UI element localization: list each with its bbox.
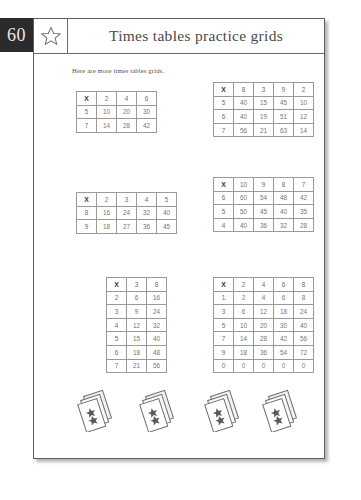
grid-answer-cell[interactable]: 16 [97, 206, 117, 220]
times-table-grid-3[interactable]: X2345816243240918273645 [76, 192, 177, 234]
grid-answer-cell[interactable]: 42 [274, 332, 294, 346]
grid-row-header: 3 [214, 305, 234, 319]
grid-row: 41232 [107, 318, 167, 332]
grid-answer-cell[interactable]: 36 [137, 220, 157, 234]
grid-header-row: X2345 [77, 193, 177, 207]
grid-answer-cell[interactable]: 40 [147, 332, 167, 346]
grid-answer-cell[interactable]: 48 [147, 345, 167, 359]
grid-answer-cell[interactable]: 40 [294, 318, 314, 332]
grid-answer-cell[interactable]: 0 [274, 359, 294, 373]
grid-row: 51540 [107, 332, 167, 346]
grid-answer-cell[interactable]: 10 [97, 105, 117, 119]
grid-answer-cell[interactable]: 14 [97, 119, 117, 133]
grid-answer-cell[interactable]: 18 [97, 220, 117, 234]
grid-column-header: 8 [147, 278, 167, 292]
grid-row-header: 5 [214, 96, 234, 110]
grid-column-header: 4 [254, 278, 274, 292]
grid-answer-cell[interactable]: 45 [254, 205, 274, 219]
grid-answer-cell[interactable]: 15 [254, 96, 274, 110]
grid-answer-cell[interactable]: 56 [294, 332, 314, 346]
grid-answer-cell[interactable]: 40 [274, 205, 294, 219]
grid-row: 540154510 [214, 96, 314, 110]
times-table-grid-2[interactable]: X8392540154510640195112756216314 [213, 82, 314, 137]
grid-row: 00000 [214, 359, 314, 373]
grid-answer-cell[interactable]: 30 [137, 105, 157, 119]
grid-row-header: 4 [107, 318, 127, 332]
grid-answer-cell[interactable]: 72 [294, 345, 314, 359]
grid-answer-cell[interactable]: 48 [274, 191, 294, 205]
grid-answer-cell[interactable]: 0 [234, 359, 254, 373]
grid-column-header: 8 [234, 83, 254, 97]
grid-column-header: 10 [234, 178, 254, 192]
grid-answer-cell[interactable]: 54 [254, 191, 274, 205]
grid-answer-cell[interactable]: 28 [254, 332, 274, 346]
times-table-grid-4[interactable]: X10987660544842550454035440363228 [213, 177, 314, 232]
grid-answer-cell[interactable]: 18 [274, 305, 294, 319]
grid-answer-cell[interactable]: 30 [274, 318, 294, 332]
grid-header-row: X246 [77, 92, 157, 106]
stacked-cards-icon [137, 386, 181, 432]
grid-answer-cell[interactable]: 42 [137, 119, 157, 133]
grid-answer-cell[interactable]: 10 [234, 318, 254, 332]
stacked-cards-icon [202, 386, 246, 432]
grid-row-header: 4 [214, 218, 234, 232]
grid-answer-cell[interactable]: 36 [254, 345, 274, 359]
grid-answer-cell[interactable]: 0 [294, 359, 314, 373]
grid-answer-cell[interactable]: 0 [254, 359, 274, 373]
grid-answer-cell[interactable]: 40 [234, 218, 254, 232]
grid-answer-cell[interactable]: 28 [294, 218, 314, 232]
grid-answer-cell[interactable]: 40 [157, 206, 177, 220]
grid-answer-cell[interactable]: 6 [234, 305, 254, 319]
grid-answer-cell[interactable]: 2 [234, 291, 254, 305]
grid-answer-cell[interactable]: 40 [234, 96, 254, 110]
grid-row: 7142842 [77, 119, 157, 133]
grid-answer-cell[interactable]: 24 [147, 305, 167, 319]
grid-answer-cell[interactable]: 9 [127, 305, 147, 319]
grid-column-header: 9 [254, 178, 274, 192]
grid-answer-cell[interactable]: 15 [127, 332, 147, 346]
grid-answer-cell[interactable]: 12 [294, 110, 314, 124]
grid-answer-cell[interactable]: 6 [127, 291, 147, 305]
grid-answer-cell[interactable]: 32 [274, 218, 294, 232]
grid-answer-cell[interactable]: 40 [234, 110, 254, 124]
grid-answer-cell[interactable]: 63 [274, 123, 294, 137]
grid-answer-cell[interactable]: 4 [254, 291, 274, 305]
decoration-row [72, 386, 290, 434]
times-table-grid-6[interactable]: X246812468361218245102030407142842569183… [213, 277, 314, 373]
grid-answer-cell[interactable]: 56 [147, 359, 167, 373]
grid-answer-cell[interactable]: 14 [294, 123, 314, 137]
grid-answer-cell[interactable]: 8 [294, 291, 314, 305]
grid-answer-cell[interactable]: 32 [147, 318, 167, 332]
grid-answer-cell[interactable]: 24 [117, 206, 137, 220]
times-table-grid-1[interactable]: X24651020307142842 [76, 91, 157, 133]
grid-answer-cell[interactable]: 36 [254, 218, 274, 232]
grid-answer-cell[interactable]: 45 [157, 220, 177, 234]
grid-answer-cell[interactable]: 21 [127, 359, 147, 373]
grid-answer-cell[interactable]: 12 [127, 318, 147, 332]
grid-answer-cell[interactable]: 21 [254, 123, 274, 137]
grid-answer-cell[interactable]: 42 [294, 191, 314, 205]
grid-answer-cell[interactable]: 10 [294, 96, 314, 110]
grid-answer-cell[interactable]: 28 [117, 119, 137, 133]
grid-answer-cell[interactable]: 20 [254, 318, 274, 332]
grid-answer-cell[interactable]: 60 [234, 191, 254, 205]
grid-answer-cell[interactable]: 45 [274, 96, 294, 110]
grid-answer-cell[interactable]: 18 [234, 345, 254, 359]
grid-answer-cell[interactable]: 50 [234, 205, 254, 219]
grid-answer-cell[interactable]: 56 [234, 123, 254, 137]
grid-answer-cell[interactable]: 12 [254, 305, 274, 319]
grid-answer-cell[interactable]: 32 [137, 206, 157, 220]
grid-answer-cell[interactable]: 20 [117, 105, 137, 119]
grid-answer-cell[interactable]: 27 [117, 220, 137, 234]
times-table-grid-5[interactable]: X382616392441232515406184872156 [106, 277, 167, 373]
grid-answer-cell[interactable]: 14 [234, 332, 254, 346]
grid-answer-cell[interactable]: 51 [274, 110, 294, 124]
grid-answer-cell[interactable]: 19 [254, 110, 274, 124]
grid-answer-cell[interactable]: 24 [294, 305, 314, 319]
grid-answer-cell[interactable]: 16 [147, 291, 167, 305]
grid-answer-cell[interactable]: 6 [274, 291, 294, 305]
grid-answer-cell[interactable]: 54 [274, 345, 294, 359]
grid-answer-cell[interactable]: 35 [294, 205, 314, 219]
grid-answer-cell[interactable]: 18 [127, 345, 147, 359]
worksheet-header: Times tables practice grids [34, 19, 324, 54]
